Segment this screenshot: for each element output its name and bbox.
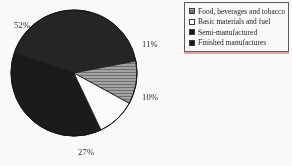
- legend-item-food-beverages-and-tobacco: Food, beverages and tobacco: [189, 6, 285, 16]
- legend-swatch-black-icon: [189, 40, 195, 46]
- legend-label: Semi-manufactured: [198, 28, 257, 37]
- legend-swatch-white-icon: [189, 19, 195, 25]
- chart-legend: Food, beverages and tobacco Basic materi…: [184, 2, 289, 52]
- slice-label-food-beverages-and-tobacco: 11%: [142, 39, 158, 49]
- legend-label: Finished manufactures: [198, 38, 266, 47]
- pie-chart-figure: 52% 11% 10% 27% Food, beverages and toba…: [0, 0, 292, 166]
- legend-item-finished-manufactures: Finished manufactures: [189, 38, 285, 48]
- legend-item-semi-manufactured: Semi-manufactured: [189, 27, 285, 37]
- legend-label: Food, beverages and tobacco: [198, 7, 285, 16]
- legend-swatch-black-icon: [189, 29, 195, 35]
- legend-label: Basic materials and fuel: [198, 17, 270, 26]
- slice-label-finished-manufactures: 52%: [14, 20, 30, 30]
- slice-label-semi-manufactured: 27%: [78, 147, 94, 157]
- slice-label-basic-materials-and-fuel: 10%: [142, 92, 158, 102]
- legend-swatch-hatched-gray-icon: [189, 8, 195, 14]
- legend-item-basic-materials-and-fuel: Basic materials and fuel: [189, 17, 285, 27]
